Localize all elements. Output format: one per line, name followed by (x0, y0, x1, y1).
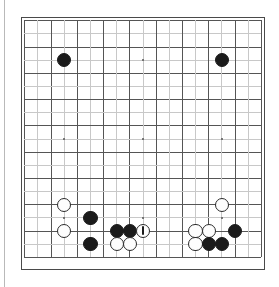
grid-line-horizontal (24, 257, 261, 258)
grid-line-horizontal (24, 152, 261, 153)
last-move-marker-icon (142, 226, 144, 235)
go-diagram-screen (0, 0, 279, 287)
left-margin-rule (4, 0, 5, 287)
black-stone[interactable] (83, 237, 97, 251)
white-stone[interactable] (215, 198, 229, 212)
grid-line-horizontal (24, 178, 261, 179)
go-board-container[interactable] (21, 17, 265, 270)
grid-line-vertical (261, 20, 262, 257)
grid-line-horizontal (24, 191, 261, 192)
grid-line-vertical (195, 20, 196, 257)
grid-line-vertical (156, 20, 157, 257)
grid-line-vertical (235, 20, 236, 257)
grid-line-vertical (169, 20, 170, 257)
black-stone[interactable] (83, 211, 97, 225)
grid-line-vertical (182, 20, 183, 257)
grid-line-horizontal (24, 165, 261, 166)
grid-line-vertical (248, 20, 249, 257)
grid-line-vertical (208, 20, 209, 257)
